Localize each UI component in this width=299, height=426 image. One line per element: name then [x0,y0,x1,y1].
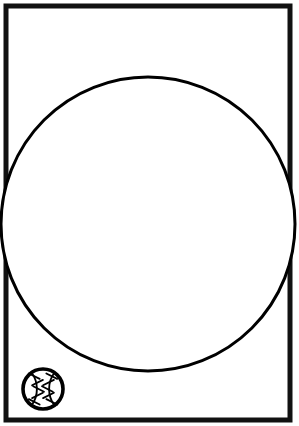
baseball-icon [23,369,63,409]
artboard [0,0,299,426]
coloring-page-canvas: Baseball Coloring Page [0,0,299,426]
baseball-body-circle [23,369,63,409]
large-ball-outline [1,77,295,371]
